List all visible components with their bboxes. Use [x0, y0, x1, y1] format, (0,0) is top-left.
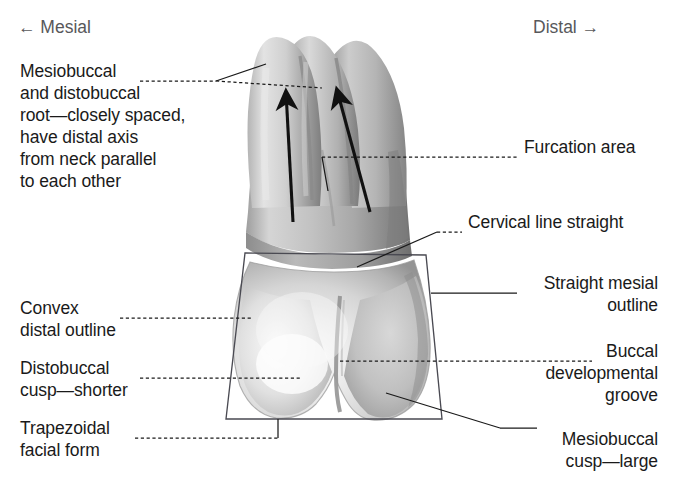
label-buccal-developmental-groove: Buccal developmental groove — [438, 340, 658, 406]
tooth-shape — [233, 36, 430, 420]
label-mesiobuccal-cusp: Mesiobuccal cusp—large — [438, 428, 658, 472]
orientation-mesial: ← Mesial — [18, 16, 91, 38]
label-furcation-area: Furcation area — [524, 136, 635, 158]
figure-canvas: ← Mesial Distal → Mesiobuccal and distob… — [0, 0, 674, 490]
label-distobuccal-cusp: Distobuccal cusp—shorter — [20, 357, 128, 401]
label-roots: Mesiobuccal and distobuccal root—closely… — [20, 60, 185, 192]
label-cervical-line: Cervical line straight — [468, 211, 623, 233]
label-trapezoidal-facial-form: Trapezoidal facial form — [20, 417, 110, 461]
label-straight-mesial-outline: Straight mesial outline — [438, 272, 658, 316]
orientation-distal: Distal → — [533, 16, 599, 38]
label-convex-distal-outline: Convex distal outline — [20, 297, 116, 341]
